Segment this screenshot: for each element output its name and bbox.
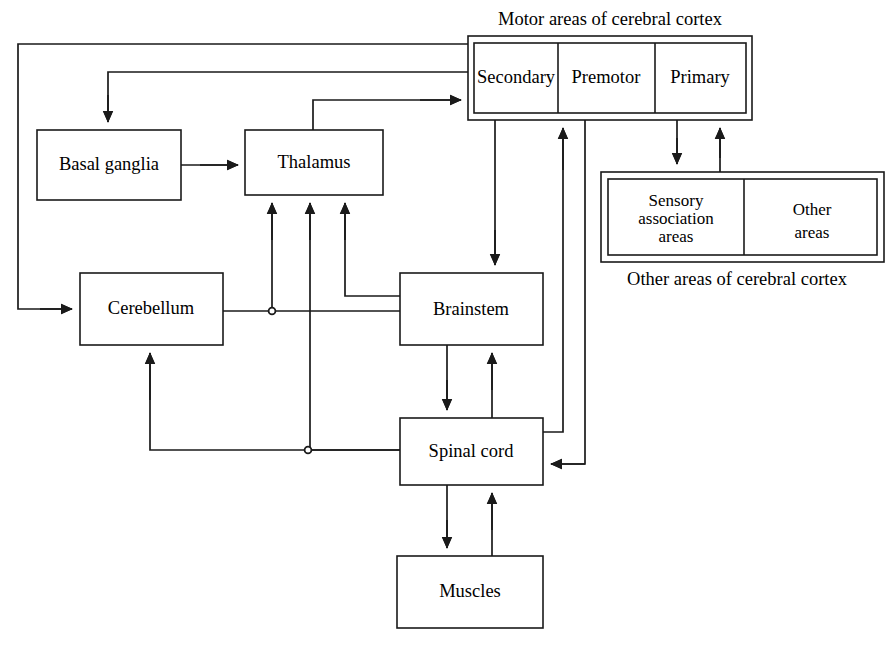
other-areas-label-line-1: Other [793,200,832,219]
connector-brainstem-to-thalamus [345,203,400,296]
junction-dot-spinalcord-branch [305,447,312,454]
basal-ganglia-label: Basal ganglia [59,154,159,174]
sensory-label-line-2: association [638,209,714,228]
motor-cortex-title: Motor areas of cerebral cortex [498,9,723,29]
connector-thalamus-to-cortex [313,100,461,130]
node-thalamus[interactable]: Thalamus [245,130,383,195]
node-cerebellum[interactable]: Cerebellum [80,273,223,345]
connector-spinalcord-to-cerebellum [150,353,400,450]
node-basal-ganglia[interactable]: Basal ganglia [37,130,181,200]
other-cortex-group: Sensory association areas Other areas [601,172,884,262]
flowchart-svg: Motor areas of cerebral cortex Secondary… [0,0,894,649]
connector-spinalcord-to-thalamus [310,203,400,450]
connector-cortex-to-spinalcord [551,120,585,464]
thalamus-label: Thalamus [278,152,351,172]
other-cortex-caption: Other areas of cerebral cortex [627,269,848,289]
node-muscles[interactable]: Muscles [397,556,543,628]
motor-cortex-group: Secondary Premotor Primary [468,36,752,120]
sensory-label-line-3: areas [659,227,694,246]
motor-cortex-cell-secondary[interactable]: Secondary [477,67,556,87]
cerebellum-label: Cerebellum [108,298,195,318]
connector-cortex-to-basal-ganglia [108,72,468,122]
brainstem-label: Brainstem [433,299,510,319]
motor-cortex-cell-premotor[interactable]: Premotor [572,67,641,87]
node-spinal-cord[interactable]: Spinal cord [400,418,543,485]
spinal-cord-label: Spinal cord [429,441,515,461]
junction-dot-cerebellum-branch [269,308,276,315]
connector-spinalcord-to-cortex [543,128,563,432]
muscles-label: Muscles [439,581,501,601]
diagram-canvas: Motor areas of cerebral cortex Secondary… [0,0,894,649]
other-areas-label-line-2: areas [795,223,830,242]
motor-cortex-cell-primary[interactable]: Primary [670,67,730,87]
node-brainstem[interactable]: Brainstem [400,273,543,345]
sensory-label-line-1: Sensory [649,191,704,210]
